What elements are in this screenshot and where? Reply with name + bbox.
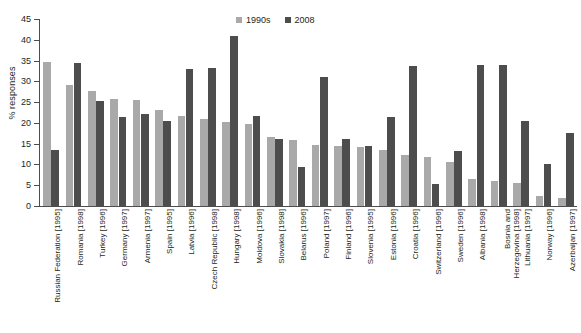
bar-group (286, 19, 308, 206)
bar-2008 (275, 139, 283, 206)
y-tick-mark (34, 102, 39, 103)
bar-2008 (499, 65, 507, 206)
x-axis-label: Spain [1995] (166, 209, 182, 329)
bar-group (510, 19, 532, 206)
bar-2008 (342, 139, 350, 206)
bar-2008 (521, 121, 529, 206)
y-tick-label: 15 (21, 140, 31, 149)
bar-2008 (454, 151, 462, 206)
bar-2008 (186, 69, 194, 206)
x-axis-label: Croatia [1996] (412, 209, 428, 329)
y-tick-label: 25 (21, 98, 31, 107)
x-axis-label: Romania [1998] (77, 209, 93, 329)
x-axis-label: Lithuania [1997] (524, 209, 540, 329)
x-axis-line (39, 206, 577, 207)
x-axis-label: Albania [1998] (479, 209, 495, 329)
x-axis-label: Slovakia [1998] (278, 209, 294, 329)
bar-2008 (230, 36, 238, 206)
bar-series-container (40, 19, 577, 206)
x-axis-label: Switzerland [1996] (435, 209, 451, 329)
y-tick-mark (34, 19, 39, 20)
bar-chart: % responses 1990s 2008 05101520253035404… (0, 0, 581, 333)
bar-2008 (477, 65, 485, 206)
bar-2008 (96, 101, 104, 206)
y-tick-mark (34, 81, 39, 82)
x-axis-label: Belarus [1996] (300, 209, 316, 329)
y-tick-mark (34, 185, 39, 186)
x-axis-label: Russian Federation [1995] (54, 209, 70, 329)
y-tick-label: 10 (21, 160, 31, 169)
bar-2008 (387, 117, 395, 206)
bar-1990s (558, 198, 566, 206)
bar-2008 (432, 184, 440, 206)
bar-group (353, 19, 375, 206)
x-axis-label: Armenia [1997] (144, 209, 160, 329)
bar-2008 (51, 150, 59, 206)
bar-1990s (155, 110, 163, 206)
x-axis-label: Czech Republic [1998] (211, 209, 227, 329)
y-tick-label: 20 (21, 119, 31, 128)
bar-group (85, 19, 107, 206)
bar-1990s (468, 179, 476, 206)
bar-group (398, 19, 420, 206)
bar-2008 (365, 146, 373, 206)
x-axis-label: Germany [1997] (121, 209, 137, 329)
bar-1990s (446, 162, 454, 206)
x-axis-label: Hungary [1998] (233, 209, 249, 329)
bar-2008 (253, 116, 261, 206)
y-tick-mark (34, 164, 39, 165)
bar-1990s (536, 196, 544, 206)
bar-group (420, 19, 442, 206)
bar-1990s (513, 183, 521, 206)
y-tick-mark (34, 123, 39, 124)
bar-group (309, 19, 331, 206)
y-tick-label: 40 (21, 36, 31, 45)
bar-1990s (424, 157, 432, 206)
bar-group (331, 19, 353, 206)
bar-2008 (141, 114, 149, 206)
bar-group (376, 19, 398, 206)
bar-1990s (491, 181, 499, 206)
bar-group (465, 19, 487, 206)
x-axis-label: Moldova [1996] (256, 209, 272, 329)
y-tick-label: 30 (21, 77, 31, 86)
bar-group (532, 19, 554, 206)
bar-1990s (110, 99, 118, 206)
bar-1990s (245, 124, 253, 206)
x-axis-label: Bosnia and Herzegovina [1998] (504, 209, 522, 329)
bar-1990s (178, 116, 186, 206)
bar-group (555, 19, 577, 206)
bar-group (107, 19, 129, 206)
bar-2008 (298, 167, 306, 206)
x-axis-labels: Russian Federation [1995]Romania [1998]T… (40, 209, 577, 333)
x-axis-label: Latvia [1996] (188, 209, 204, 329)
bar-2008 (163, 121, 171, 206)
y-tick-mark (34, 61, 39, 62)
bar-1990s (200, 119, 208, 206)
bar-1990s (357, 147, 365, 206)
y-tick-label: 0 (26, 202, 31, 211)
bar-group (40, 19, 62, 206)
x-axis-label: Norway [1996] (546, 209, 562, 329)
bar-1990s (289, 140, 297, 206)
y-tick-label: 5 (26, 181, 31, 190)
bar-group (152, 19, 174, 206)
bar-2008 (119, 117, 127, 206)
x-axis-label: Azerbaijan [1997] (569, 209, 581, 329)
bar-1990s (66, 85, 74, 206)
bar-1990s (379, 150, 387, 206)
bar-1990s (133, 100, 141, 206)
y-axis-title: % responses (7, 48, 17, 138)
bar-1990s (43, 62, 51, 206)
x-axis-label: Finland [1996] (345, 209, 361, 329)
bar-1990s (334, 146, 342, 206)
bar-1990s (88, 91, 96, 206)
y-tick-mark (34, 144, 39, 145)
bar-2008 (208, 68, 216, 206)
bar-2008 (320, 77, 328, 206)
y-tick-label: 45 (21, 15, 31, 24)
bar-2008 (566, 133, 574, 206)
bar-group (488, 19, 510, 206)
bar-group (197, 19, 219, 206)
plot-area: 051015202530354045 (39, 19, 577, 206)
